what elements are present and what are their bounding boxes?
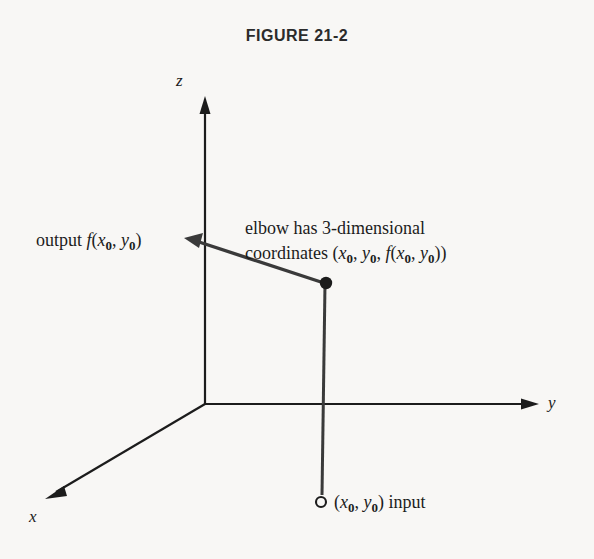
input-var-x: x [340,492,348,512]
y-axis-label: y [548,391,556,414]
output-paren-close: ) [136,230,142,250]
elbow-annotation-line-1: elbow has 3-dimensional [245,216,446,241]
elbow-sep-3: , [411,243,420,263]
elbow-annotation: elbow has 3-dimensional coordinates (x0,… [245,216,446,267]
z-axis-label: z [176,69,183,92]
elbow-coordinates-prefix: coordinates ( [245,243,338,263]
output-annotation: output f(x0, y0) [36,228,142,255]
elbow-var-y2: y [420,243,428,263]
x-axis-line [56,404,205,492]
elbow-sep-1: , [353,243,362,263]
output-comma: , [112,230,121,250]
output-var-y: y [121,230,129,250]
elbow-point-dot [320,277,332,289]
input-word-text: input [388,492,425,512]
z-axis-arrowhead [200,96,211,114]
elbow-annotation-line-2: coordinates (x0, y0, f(x0, y0)) [245,241,446,268]
output-arrowhead [184,233,203,248]
output-prefix-text: output [36,230,87,250]
x-axis-arrowhead [45,486,67,499]
y-axis-arrowhead [521,399,539,410]
x-axis-label: x [29,505,37,528]
input-point-circle [316,497,326,507]
elbow-var-y: y [362,243,370,263]
input-paren-close: ) [378,492,389,512]
figure-container: FIGURE 21-2 z y x output f(x0, y0) elbow… [0,0,594,559]
input-annotation: (x0, y0) input [334,490,425,517]
elbow-paren-close: )) [434,243,446,263]
elbow-drop-line [322,284,325,495]
output-var-x: x [98,230,106,250]
coordinate-diagram [0,0,594,559]
